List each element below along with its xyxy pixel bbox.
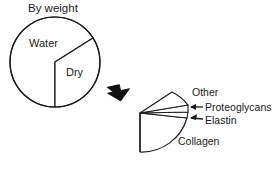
wedge-label-other: Other — [192, 87, 218, 98]
wedge-label-proteoglycans: Proteoglycans — [205, 102, 272, 113]
wedge-label-collagen: Collagen — [178, 136, 219, 147]
wedge-label-elastin: Elastin — [205, 115, 237, 126]
figure-vector-canvas — [0, 0, 275, 173]
pie-label-dry: Dry — [66, 67, 83, 78]
thick-arrow-down-right-icon — [107, 83, 132, 103]
composition-pie-figure: By weight Water Dry Other Proteoglycans … — [0, 0, 275, 173]
pie-label-water: Water — [29, 38, 58, 49]
by-weight-pie — [10, 17, 100, 107]
figure-title: By weight — [28, 3, 78, 15]
elastin-leader-arrow-icon — [190, 114, 203, 120]
proteoglycans-leader-arrow-icon — [190, 104, 203, 110]
